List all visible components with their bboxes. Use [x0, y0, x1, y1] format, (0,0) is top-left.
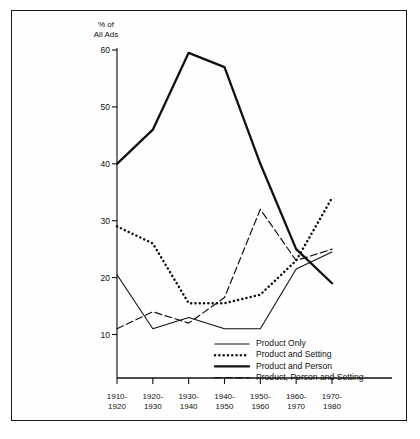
- chart-figure: % of All Ads 102030405060 1910-19201920-…: [0, 0, 420, 439]
- y-tick-label: 60: [101, 45, 111, 55]
- legend-label-3: Product, Person and Setting: [256, 372, 364, 382]
- line-chart-svg: % of All Ads 102030405060 1910-19201920-…: [0, 0, 420, 439]
- x-tick-label-bottom: 1950: [216, 402, 234, 411]
- legend-label-0: Product Only: [256, 338, 306, 348]
- legend-label-1: Product and Setting: [256, 349, 332, 359]
- series-line-0: [117, 252, 332, 329]
- x-tick-label-bottom: 1970: [287, 402, 305, 411]
- x-tick-label-top: 1970-: [322, 392, 343, 401]
- series-line-3: [117, 209, 332, 328]
- y-tick-label: 50: [101, 102, 111, 112]
- y-tick-label: 40: [101, 159, 111, 169]
- x-tick-label-top: 1930-: [178, 392, 199, 401]
- y-tick-label: 30: [101, 216, 111, 226]
- legend-label-2: Product and Person: [256, 361, 332, 371]
- x-axis-ticks: 1910-19201920-19301930-19401940-19501950…: [107, 378, 343, 411]
- y-axis-label-line1: % of: [98, 20, 115, 29]
- x-tick-label-top: 1920-: [143, 392, 164, 401]
- y-axis-label-line2: All Ads: [94, 30, 118, 39]
- y-axis-ticks: 102030405060: [101, 45, 117, 340]
- x-tick-label-bottom: 1960: [251, 402, 269, 411]
- x-tick-label-bottom: 1930: [144, 402, 162, 411]
- series-line-2: [117, 53, 332, 283]
- chart-legend: Product OnlyProduct and SettingProduct a…: [215, 338, 364, 382]
- y-tick-label: 10: [101, 330, 111, 340]
- x-tick-label-bottom: 1940: [180, 402, 198, 411]
- x-tick-label-top: 1960-: [286, 392, 307, 401]
- x-tick-label-bottom: 1920: [108, 402, 126, 411]
- x-tick-label-top: 1910-: [107, 392, 128, 401]
- y-tick-label: 20: [101, 273, 111, 283]
- series-line-1: [117, 198, 332, 303]
- x-tick-label-top: 1940-: [214, 392, 235, 401]
- chart-series-lines: [117, 53, 332, 329]
- x-tick-label-bottom: 1980: [323, 402, 341, 411]
- x-tick-label-top: 1950-: [250, 392, 271, 401]
